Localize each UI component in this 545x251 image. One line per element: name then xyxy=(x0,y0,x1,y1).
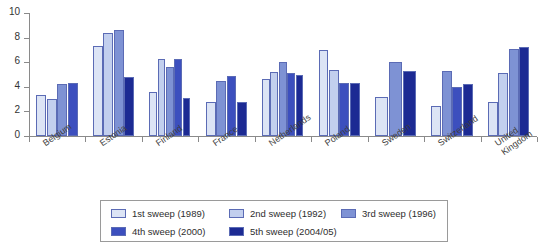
legend-item: 4th sweep (2000) xyxy=(111,222,205,240)
legend-item: 2nd sweep (1992) xyxy=(229,204,326,222)
legend-label: 1st sweep (1989) xyxy=(132,208,205,219)
bar xyxy=(206,102,216,136)
bar xyxy=(216,81,226,136)
bar xyxy=(488,102,498,136)
y-axis-tick-label: 10 xyxy=(9,6,24,18)
bar xyxy=(350,83,360,136)
legend-swatch xyxy=(229,227,244,236)
bar xyxy=(103,33,113,136)
bar-chart: 0246810 BelgiumEstoniaFinlandFranceNethe… xyxy=(0,0,545,251)
bar xyxy=(158,59,166,136)
y-axis-tick: 2 xyxy=(24,111,29,112)
bar xyxy=(442,71,452,136)
legend-swatch xyxy=(229,209,244,218)
bar xyxy=(149,92,157,136)
bar xyxy=(431,106,441,136)
y-axis-tick: 10 xyxy=(24,13,29,14)
bar xyxy=(114,30,124,136)
bar xyxy=(498,73,508,136)
bar xyxy=(279,62,287,136)
legend-row: 1st sweep (1989)2nd sweep (1992)3rd swee… xyxy=(101,204,447,222)
y-axis-tick: 8 xyxy=(24,38,29,39)
legend-label: 5th sweep (2004/05) xyxy=(250,226,337,237)
legend-label: 4th sweep (2000) xyxy=(132,226,205,237)
legend-swatch xyxy=(341,209,356,218)
x-axis-labels: BelgiumEstoniaFinlandFranceNetherlandsPo… xyxy=(0,140,545,192)
y-axis-tick-label: 8 xyxy=(14,31,24,43)
legend-swatch xyxy=(111,227,126,236)
legend-label: 3rd sweep (1996) xyxy=(362,208,436,219)
legend-row: 4th sweep (2000)5th sweep (2004/05) xyxy=(101,222,447,240)
y-axis-tick-label: 2 xyxy=(14,104,24,116)
bar xyxy=(329,70,339,136)
y-axis-line xyxy=(29,13,30,137)
legend-swatch xyxy=(111,209,126,218)
bar xyxy=(36,95,46,136)
bar xyxy=(93,46,103,136)
y-axis-tick: 4 xyxy=(24,87,29,88)
legend-item: 3rd sweep (1996) xyxy=(341,204,436,222)
bars-layer xyxy=(0,0,545,136)
legend-item: 5th sweep (2004/05) xyxy=(229,222,337,240)
bar xyxy=(270,72,278,136)
legend: 1st sweep (1989)2nd sweep (1992)3rd swee… xyxy=(100,200,448,242)
y-axis-tick-label: 4 xyxy=(14,80,24,92)
bar xyxy=(375,97,388,136)
bar xyxy=(319,50,329,136)
bar xyxy=(262,79,270,136)
y-axis-tick-label: 6 xyxy=(14,55,24,67)
y-axis-tick: 6 xyxy=(24,62,29,63)
legend-label: 2nd sweep (1992) xyxy=(250,208,326,219)
legend-item: 1st sweep (1989) xyxy=(111,204,205,222)
